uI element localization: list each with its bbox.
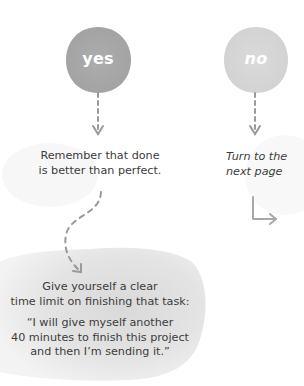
no-message-line2: next page [226,165,304,180]
tip-text: Give yourself a clear time limit on fini… [0,280,200,360]
tip-line1: Give yourself a clear [0,280,200,295]
dashed-s-curve-arrow-icon [65,192,101,272]
tip-quote-line3: and then I’m sending it.” [0,345,200,360]
yes-message-line2: is better than perfect. [30,164,170,179]
tip-line2: time limit on finishing that task: [0,295,200,310]
tip-quote-line1: “I will give myself another [0,316,200,331]
tip-quote-line2: 40 minutes to finish this project [0,331,200,346]
dashed-arrow-down-icon [250,93,260,134]
no-label: no [224,50,288,68]
elbow-arrow-right-icon [253,197,276,224]
no-branch-message: Turn to the next page [226,150,304,179]
no-message-line1: Turn to the [226,150,304,165]
yes-branch-message: Remember that done is better than perfec… [30,149,170,178]
yes-label: yes [66,50,130,68]
dashed-arrow-down-icon [93,93,103,134]
yes-message-line1: Remember that done [30,149,170,164]
